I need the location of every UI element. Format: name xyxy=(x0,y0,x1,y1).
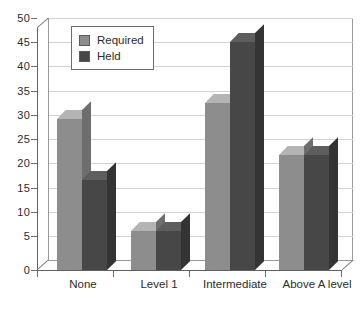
floor-right-edge xyxy=(342,260,354,271)
x-tick-0 xyxy=(37,271,38,277)
y-tick-label-40: 40 xyxy=(0,61,30,72)
bar-above-a-level-required xyxy=(279,155,304,270)
bar-above-a-level-held xyxy=(304,155,329,270)
bar-top-face xyxy=(205,94,230,103)
x-axis-label-intermediate: Intermediate xyxy=(193,278,277,291)
bar-side-face xyxy=(329,146,338,270)
legend-swatch-held-icon xyxy=(79,51,90,62)
x-axis-label-above-a-level: Above A level xyxy=(273,278,361,291)
y-tick-mark-25 xyxy=(31,139,37,140)
bar-top-face xyxy=(156,222,181,231)
x-tick-2 xyxy=(189,271,190,277)
y-tick-mark-45 xyxy=(31,42,37,43)
y-tick-mark-50 xyxy=(31,18,37,19)
x-tick-1 xyxy=(113,271,114,277)
bar-level1-held xyxy=(156,231,181,270)
y-tick-label-10: 10 xyxy=(0,207,30,218)
y-tick-mark-10 xyxy=(31,212,37,213)
y-tick-mark-0 xyxy=(31,270,37,271)
bar-top-face xyxy=(57,110,82,119)
bar-top-face xyxy=(304,146,329,155)
bar-chart: 50 45 40 35 30 25 20 15 10 5 0 None Leve… xyxy=(0,0,364,309)
y-tick-label-25: 25 xyxy=(0,134,30,145)
bar-side-face xyxy=(181,222,190,270)
legend-label-held: Held xyxy=(97,50,121,62)
y-tick-label-35: 35 xyxy=(0,86,30,97)
bar-top-face xyxy=(82,171,107,180)
bar-face xyxy=(131,231,156,270)
bar-top-face xyxy=(279,146,304,155)
x-axis-label-level1: Level 1 xyxy=(121,278,197,291)
bar-face xyxy=(230,42,255,270)
y-tick-label-5: 5 xyxy=(0,231,30,242)
y-tick-mark-15 xyxy=(31,188,37,189)
y-tick-label-0: 0 xyxy=(0,265,30,276)
y-tick-mark-40 xyxy=(31,66,37,67)
legend-entry-held: Held xyxy=(79,48,144,64)
bar-side-face xyxy=(255,33,264,270)
bar-level1-required xyxy=(131,231,156,270)
bar-face xyxy=(279,155,304,270)
legend-swatch-required-icon xyxy=(79,35,90,46)
y-tick-mark-5 xyxy=(31,236,37,237)
legend-entry-required: Required xyxy=(79,32,144,48)
bar-face xyxy=(205,103,230,270)
y-tick-label-15: 15 xyxy=(0,183,30,194)
bar-side-face xyxy=(107,171,116,270)
y-tick-mark-20 xyxy=(31,163,37,164)
bar-top-face xyxy=(230,33,255,42)
y-tick-label-50: 50 xyxy=(0,13,30,24)
y-axis-labels: 50 45 40 35 30 25 20 15 10 5 0 xyxy=(0,0,30,309)
bar-face xyxy=(57,119,82,270)
y-tick-mark-30 xyxy=(31,115,37,116)
chart-legend: Required Held xyxy=(71,26,154,70)
legend-label-required: Required xyxy=(97,34,144,46)
y-tick-mark-35 xyxy=(31,91,37,92)
bar-face xyxy=(156,231,181,270)
bar-intermediate-held xyxy=(230,42,255,270)
bars-layer xyxy=(0,0,364,309)
bar-face xyxy=(82,180,107,270)
y-tick-label-20: 20 xyxy=(0,158,30,169)
x-tick-3 xyxy=(265,271,266,277)
bar-top-face xyxy=(131,222,156,231)
bar-none-held xyxy=(82,180,107,270)
y-tick-label-30: 30 xyxy=(0,110,30,121)
x-axis-label-none: None xyxy=(45,278,121,291)
bar-none-required xyxy=(57,119,82,270)
bar-face xyxy=(304,155,329,270)
y-tick-label-45: 45 xyxy=(0,37,30,48)
x-tick-4 xyxy=(341,271,342,277)
bar-intermediate-required xyxy=(205,103,230,270)
